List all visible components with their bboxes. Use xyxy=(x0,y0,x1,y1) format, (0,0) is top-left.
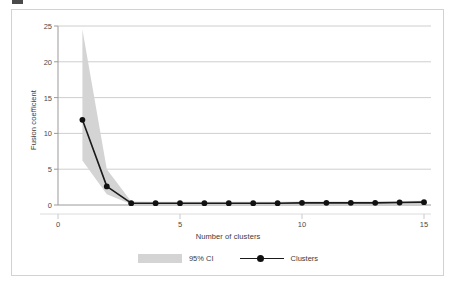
data-point xyxy=(250,200,256,206)
data-point xyxy=(397,200,403,206)
y-tick-label: 20 xyxy=(34,57,52,66)
series-markers-clusters xyxy=(80,117,427,206)
y-axis-label: Fusion coefficient xyxy=(26,70,40,170)
legend-item-clusters-label: Clusters xyxy=(291,254,319,263)
legend-item-ci-label: 95% CI xyxy=(189,254,214,263)
x-tick-label: 0 xyxy=(56,220,60,229)
series-line-clusters xyxy=(82,120,424,203)
axes xyxy=(40,26,431,219)
legend-item-clusters: Clusters xyxy=(240,254,319,263)
data-point xyxy=(348,200,354,206)
data-point xyxy=(177,200,183,206)
chart-legend: 95% CI Clusters xyxy=(0,254,456,263)
x-tick-label: 10 xyxy=(298,220,306,229)
figure-root: Fusion coefficient Number of clusters 25… xyxy=(0,0,456,286)
x-tick-label: 5 xyxy=(178,220,182,229)
data-point xyxy=(226,200,232,206)
data-point xyxy=(153,200,159,206)
x-tick-label: 15 xyxy=(420,220,428,229)
gridlines xyxy=(58,26,431,205)
x-axis-label-text: Number of clusters xyxy=(0,232,456,241)
data-point xyxy=(104,183,110,189)
data-point xyxy=(202,200,208,206)
legend-item-ci: 95% CI xyxy=(138,254,214,263)
ci-band-swatch-icon xyxy=(138,254,182,263)
data-point xyxy=(299,200,305,206)
y-tick-label: 0 xyxy=(34,201,52,210)
y-tick-label: 25 xyxy=(34,22,52,31)
data-point xyxy=(421,199,427,205)
cluster-line-swatch-icon xyxy=(240,254,284,263)
y-tick-label: 15 xyxy=(34,93,52,102)
data-point xyxy=(324,200,330,206)
fusion-coefficient-line-chart xyxy=(0,0,456,286)
y-tick-label: 10 xyxy=(34,129,52,138)
y-tick-label: 5 xyxy=(34,165,52,174)
data-point xyxy=(372,200,378,206)
ci-band-95 xyxy=(82,30,424,205)
data-point xyxy=(275,200,281,206)
data-point xyxy=(128,200,134,206)
data-point xyxy=(80,117,86,123)
